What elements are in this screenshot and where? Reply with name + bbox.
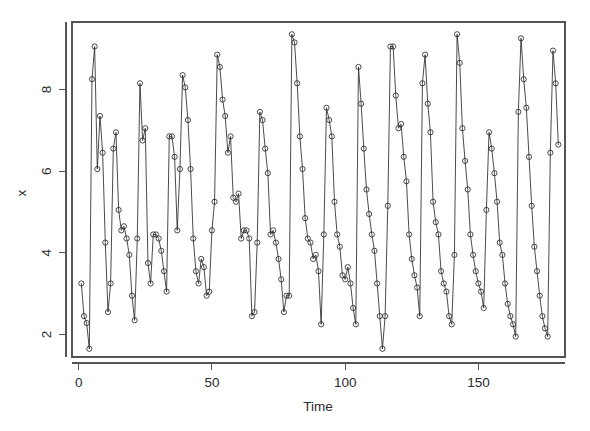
y-tick-label: 4 xyxy=(40,249,55,257)
x-tick-label: 0 xyxy=(75,375,83,390)
x-tick-label: 100 xyxy=(334,375,357,390)
x-tick-label: 50 xyxy=(204,375,219,390)
x-axis-ticks: 050100150 xyxy=(75,363,490,390)
plot-frame xyxy=(72,22,565,357)
y-axis-title: x xyxy=(14,189,29,196)
series-line xyxy=(81,34,558,349)
x-axis: 050100150 Time xyxy=(72,363,565,414)
y-axis-ticks: 2468 xyxy=(39,86,66,339)
time-series-plot: 050100150 Time 2468 x xyxy=(0,0,590,431)
data-series xyxy=(79,32,561,352)
y-tick-label: 8 xyxy=(39,86,54,94)
x-axis-title: Time xyxy=(303,399,333,414)
chart-figure: 050100150 Time 2468 x xyxy=(0,0,590,431)
y-tick-label: 6 xyxy=(39,167,54,175)
y-tick-label: 2 xyxy=(40,331,55,339)
y-axis: 2468 x xyxy=(14,22,66,357)
x-tick-label: 150 xyxy=(467,375,490,390)
